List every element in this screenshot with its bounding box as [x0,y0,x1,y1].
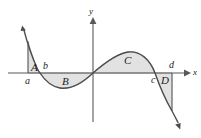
region-label-D: D [161,75,169,86]
region-label-C: C [124,55,131,66]
point-label-a: a [25,76,30,86]
region-label-B: B [62,76,69,87]
point-label-c: c [151,75,155,85]
point-label-d: d [169,60,174,70]
curve-start-arrowhead [21,26,26,32]
curve-end-arrowhead [175,123,180,130]
y-axis-label: y [89,7,93,16]
calculus-area-diagram: A B C D a b c d x y [0,0,201,138]
x-axis-arrowhead [184,70,191,77]
region-label-A: A [31,62,38,73]
point-label-b: b [43,61,48,71]
y-axis-arrowhead [90,17,97,24]
x-axis-label: x [193,68,197,77]
